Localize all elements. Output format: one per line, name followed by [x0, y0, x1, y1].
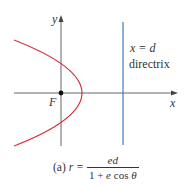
- denominator-one-plus: 1 +: [89, 169, 106, 181]
- caption-lhs: r =: [69, 161, 84, 173]
- caption-fraction: ed 1 + e cos θ: [87, 154, 139, 181]
- denominator-theta: θ: [131, 169, 136, 181]
- caption-part: (a): [53, 161, 66, 173]
- focus-point: [59, 91, 64, 96]
- y-axis-arrow-icon: [59, 15, 64, 22]
- fraction-denominator: 1 + e cos θ: [87, 167, 139, 181]
- fraction-numerator: ed: [106, 154, 120, 167]
- denominator-cos: cos: [111, 169, 131, 181]
- x-axis-label: x: [170, 97, 175, 109]
- directrix-label: directrix: [129, 58, 170, 70]
- y-axis-label: y: [52, 13, 57, 25]
- focus-label: F: [49, 96, 56, 108]
- directrix-equation: x = d: [130, 42, 155, 54]
- figure-caption: (a) r = ed 1 + e cos θ: [53, 150, 139, 184]
- x-axis-arrow-icon: [171, 91, 178, 96]
